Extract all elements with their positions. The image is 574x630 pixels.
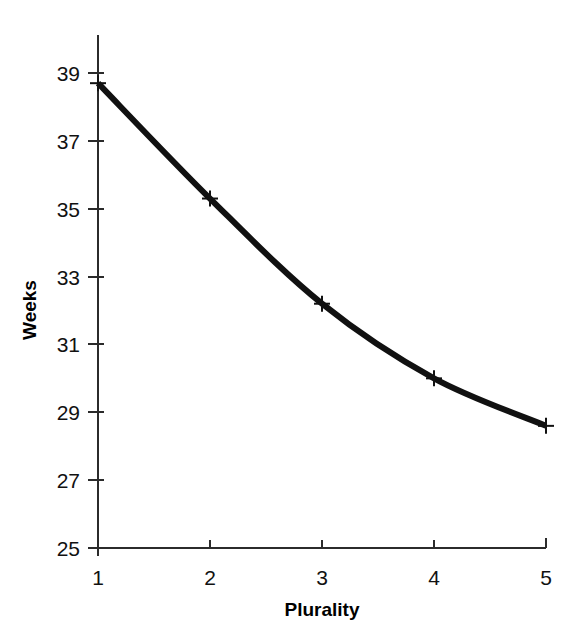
- x-tick-label-3: 3: [316, 566, 328, 589]
- x-tick-label-4: 4: [428, 566, 440, 589]
- y-tick-label-37: 37: [57, 130, 80, 153]
- y-tick-label-27: 27: [57, 469, 80, 492]
- y-tick-label-39: 39: [57, 62, 80, 85]
- y-tick-label-25: 25: [57, 537, 80, 560]
- x-tick-label-1: 1: [92, 566, 104, 589]
- x-axis-title: Plurality: [285, 599, 360, 620]
- chart-canvas: 39 37 35 33 31 29 27 25 1 2 3 4 5 Plural…: [0, 0, 574, 630]
- y-tick-label-29: 29: [57, 401, 80, 424]
- y-tick-label-31: 31: [57, 333, 80, 356]
- chart-figure: 39 37 35 33 31 29 27 25 1 2 3 4 5 Plural…: [0, 0, 574, 630]
- y-axis-title: Weeks: [19, 280, 40, 340]
- chart-background: [0, 0, 574, 630]
- x-tick-label-2: 2: [204, 566, 216, 589]
- y-tick-label-33: 33: [57, 266, 80, 289]
- x-tick-label-5: 5: [540, 566, 552, 589]
- y-tick-label-35: 35: [57, 198, 80, 221]
